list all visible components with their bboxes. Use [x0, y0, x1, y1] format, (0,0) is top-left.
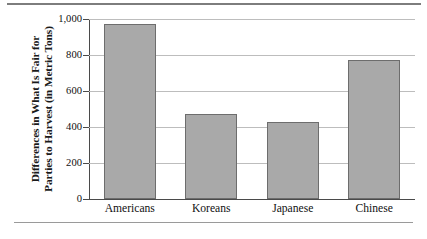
y-tick-label-600: 600	[42, 86, 82, 96]
y-tick-mark-600	[83, 91, 89, 92]
y-tick-label-1000: 1,000	[42, 14, 82, 24]
y-tick-label-200: 200	[42, 158, 82, 168]
x-category-label-japanese: Japanese	[252, 202, 334, 216]
x-category-label-americans: Americans	[89, 202, 171, 216]
y-tick-mark-400	[83, 127, 89, 128]
bar-chinese	[348, 60, 400, 199]
y-tick-label-0: 0	[42, 194, 82, 204]
y-tick-mark-200	[83, 163, 89, 164]
x-category-label-koreans: Koreans	[171, 202, 253, 216]
gridline-1000	[89, 19, 415, 20]
x-axis-category-labels: AmericansKoreansJapaneseChinese	[89, 202, 415, 220]
bar-koreans	[185, 114, 237, 200]
bar-americans	[104, 24, 156, 199]
bar-chart-figure: Differences in What Is Fair for Parties …	[0, 0, 427, 239]
x-category-label-chinese: Chinese	[334, 202, 416, 216]
y-tick-label-400: 400	[42, 122, 82, 132]
y-axis-tick-labels: 02004006008001,000	[38, 0, 82, 239]
y-tick-mark-1000	[83, 19, 89, 20]
y-tick-label-800: 800	[42, 50, 82, 60]
y-tick-mark-0	[83, 199, 89, 200]
plot-area	[89, 19, 415, 199]
bar-japanese	[267, 122, 319, 199]
gridline-0	[89, 199, 415, 200]
y-tick-mark-800	[83, 55, 89, 56]
